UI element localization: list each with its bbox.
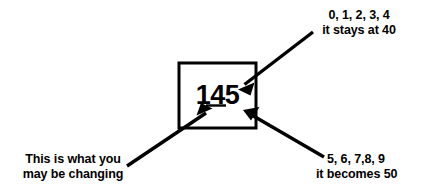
annotation-bottom-right-line-1: 5, 6, 7,8, 9 [316,152,428,167]
number-box [179,63,256,128]
annotation-bottom-right: 5, 6, 7,8, 9 it becomes 50 [316,152,428,182]
annotation-bottom-left: This is what you may be changing [14,152,132,182]
annotation-bottom-right-line-2: it becomes 50 [316,167,428,182]
annotation-top-right-line-2: it stays at 40 [293,23,425,38]
annotation-bottom-left-line-1: This is what you [14,152,132,167]
annotation-top-right: 0, 1, 2, 3, 4 it stays at 40 [293,8,425,38]
annotation-top-right-line-1: 0, 1, 2, 3, 4 [293,8,425,23]
diagram-canvas: 145 0, 1, 2, 3, 4 it stays at 40 5, 6, 7… [0,0,429,194]
annotation-bottom-left-line-2: may be changing [14,167,132,182]
